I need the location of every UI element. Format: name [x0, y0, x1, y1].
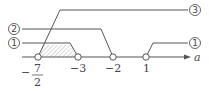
- axis-arrow-icon: [184, 55, 191, 60]
- svg-text:−: −: [21, 66, 30, 79]
- svg-text:1: 1: [192, 38, 198, 48]
- marker-2-left: 2: [9, 24, 20, 35]
- range-1b-line: [146, 43, 188, 57]
- svg-text:3: 3: [192, 5, 198, 15]
- marker-3-right: 3: [190, 5, 201, 16]
- label-neg-2: −2: [105, 62, 121, 75]
- point-neg-3: [75, 54, 81, 60]
- svg-text:2: 2: [11, 24, 17, 34]
- svg-text:1: 1: [11, 38, 17, 48]
- number-line-diagram: a 2 1 3 1 − 7 2 −3 −2 1: [0, 0, 209, 91]
- axis-label: a: [194, 51, 201, 64]
- label-neg-7-2: − 7 2: [21, 62, 43, 89]
- label-1: 1: [143, 62, 150, 75]
- svg-text:2: 2: [34, 76, 41, 89]
- marker-1-left: 1: [9, 38, 20, 49]
- svg-text:7: 7: [34, 62, 41, 75]
- point-neg-7-2: [35, 54, 41, 60]
- shaded-region: [40, 45, 76, 57]
- marker-1-right: 1: [190, 38, 201, 49]
- point-neg-2: [110, 54, 116, 60]
- label-neg-3: −3: [70, 62, 86, 75]
- point-1: [143, 54, 149, 60]
